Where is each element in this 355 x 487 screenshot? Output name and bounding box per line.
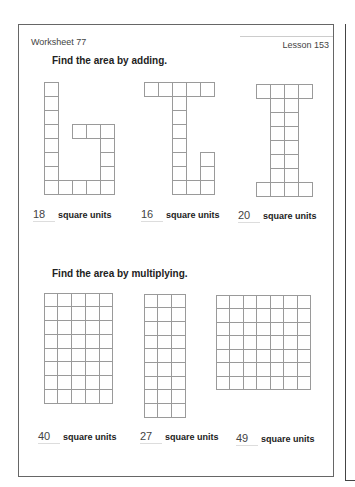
unit-square [157, 307, 172, 322]
unit-square [44, 82, 59, 97]
unit-square [172, 152, 187, 167]
blank [72, 110, 86, 124]
blank [144, 138, 158, 152]
unit-square [71, 306, 86, 321]
unit-square [71, 293, 86, 308]
unit-square [99, 389, 114, 404]
unit-square [256, 362, 271, 377]
unit-square [157, 403, 172, 418]
unit-square [57, 348, 72, 363]
unit-square [44, 361, 59, 376]
answer-value: 49 [236, 432, 258, 446]
blank [144, 124, 158, 138]
unit-square [57, 361, 72, 376]
blank [86, 138, 100, 152]
blank [186, 110, 200, 124]
unit-square [270, 154, 285, 169]
blank [58, 138, 72, 152]
blank [256, 168, 270, 182]
unit-square [71, 348, 86, 363]
unit-square [171, 335, 186, 350]
blank [72, 96, 86, 110]
unit-square [44, 389, 59, 404]
unit-square [85, 320, 100, 335]
blank [86, 152, 100, 166]
blank [144, 110, 158, 124]
unit-square [71, 361, 86, 376]
answer-value: 40 [38, 430, 60, 444]
blank [86, 82, 100, 96]
unit-square [71, 334, 86, 349]
answer-3: 20 square units [238, 209, 317, 223]
unit-square [44, 166, 59, 181]
unit-square [297, 322, 312, 337]
blank [186, 124, 200, 138]
blank [186, 96, 200, 110]
unit-square [270, 349, 285, 364]
unit-square [216, 308, 231, 323]
unit-square [256, 295, 271, 310]
unit-square [243, 362, 258, 377]
unit-square [85, 334, 100, 349]
unit-square [284, 154, 299, 169]
header-rule [240, 36, 333, 37]
unit-square [243, 376, 258, 391]
unit-square [256, 308, 271, 323]
unit-square [171, 294, 186, 309]
blank [58, 96, 72, 110]
unit-square [144, 82, 159, 97]
unit-square [44, 334, 59, 349]
unit-square [297, 349, 312, 364]
unit-square [270, 335, 285, 350]
unit-square [44, 293, 59, 308]
unit-square [57, 334, 72, 349]
unit-square [298, 84, 313, 99]
blank [100, 110, 114, 124]
answer-value: 27 [140, 430, 162, 444]
unit-square [44, 375, 59, 390]
unit-square [86, 124, 101, 139]
unit-square [297, 362, 312, 377]
unit-square [72, 180, 87, 195]
unit-square [172, 138, 187, 153]
unit-square [158, 82, 173, 97]
unit-square [186, 180, 201, 195]
unit-square [44, 152, 59, 167]
unit-square [270, 84, 285, 99]
unit-square [99, 320, 114, 335]
unit-square [144, 389, 159, 404]
unit-square [284, 126, 299, 141]
blank [100, 82, 114, 96]
blank [158, 110, 172, 124]
unit-square [270, 98, 285, 113]
unit-square [297, 295, 312, 310]
unit-square [171, 389, 186, 404]
unit-square [284, 168, 299, 183]
blank [72, 82, 86, 96]
blank [58, 152, 72, 166]
unit-square [243, 322, 258, 337]
unit-square [172, 180, 187, 195]
unit-square [99, 334, 114, 349]
blank [256, 140, 270, 154]
rectangle-2 [144, 294, 185, 417]
blank [186, 166, 200, 180]
unit-square [144, 362, 159, 377]
unit-square [216, 295, 231, 310]
unit-square [284, 84, 299, 99]
blank [158, 124, 172, 138]
blank [256, 154, 270, 168]
unit-square [85, 389, 100, 404]
unit-square [297, 308, 312, 323]
shape-3 [256, 84, 312, 196]
blank [72, 138, 86, 152]
unit-square [243, 308, 258, 323]
unit-square [71, 320, 86, 335]
unit-square [144, 403, 159, 418]
unit-square [298, 182, 313, 197]
blank [298, 98, 312, 112]
answer-value: 18 [33, 208, 55, 222]
blank [58, 124, 72, 138]
unit-label: square units [261, 434, 315, 446]
unit-square [284, 112, 299, 127]
